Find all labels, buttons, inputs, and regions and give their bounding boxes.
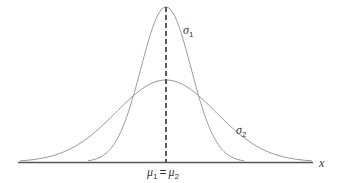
sigma2-label: σ2 (236, 123, 247, 139)
sigma1-label: σ1 (183, 23, 194, 39)
x-axis-label: x (318, 156, 325, 170)
mean-label: μ1=μ2 (146, 165, 180, 181)
normal-distribution-diagram: x σ1 σ2 μ1=μ2 (0, 0, 341, 183)
